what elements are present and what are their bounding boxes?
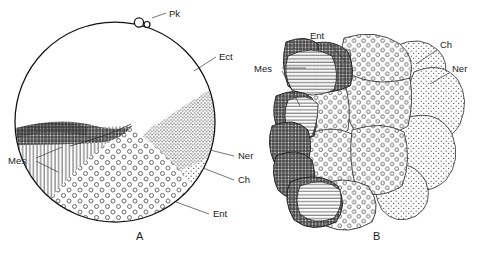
leader-ner-a <box>210 150 234 156</box>
label-pk-a: Pk <box>169 8 180 19</box>
polar-body-small-icon <box>144 22 150 28</box>
panel-b-caption: B <box>373 230 380 242</box>
panel-a: Pk Ect Ner Ch Ent Mes A <box>8 8 253 242</box>
leader-pk-a <box>152 13 166 18</box>
label-ch-a: Ch <box>238 174 250 185</box>
leader-ent-a <box>176 202 209 214</box>
label-ner-a: Ner <box>238 150 253 161</box>
label-ent-b: Ent <box>310 30 325 41</box>
label-ent-a: Ent <box>213 208 228 219</box>
label-mes-b: Mes <box>254 63 272 74</box>
cell-mes-b-highlight-3 <box>297 182 341 221</box>
label-ch-b: Ch <box>440 39 452 50</box>
label-mes-a: Mes <box>8 155 26 166</box>
leader-ect-a <box>194 57 216 71</box>
panel-b: Ent Ch Ner Mes B <box>254 30 467 242</box>
label-ect-a: Ect <box>219 51 233 62</box>
leader-ch-a <box>203 168 234 180</box>
embryo-figure: Pk Ect Ner Ch Ent Mes A <box>0 0 484 257</box>
panel-a-caption: A <box>136 230 144 242</box>
label-ner-b: Ner <box>452 63 467 74</box>
polar-body-large-icon <box>134 18 143 27</box>
panel-a-regions <box>10 15 230 236</box>
cell-mes-b-highlight-1 <box>286 50 337 95</box>
